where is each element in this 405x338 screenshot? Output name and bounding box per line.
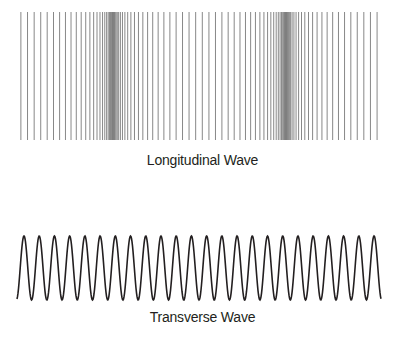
transverse-wave-caption: Transverse Wave	[0, 309, 405, 325]
sine-wave-path	[17, 236, 381, 300]
transverse-wave-curve	[0, 0, 405, 338]
